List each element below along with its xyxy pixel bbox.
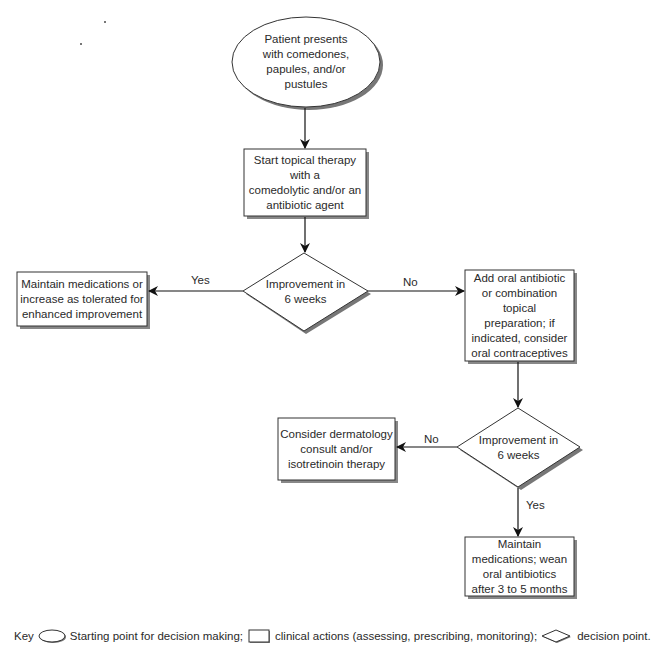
edge-label-yes-1: Yes [191, 274, 210, 286]
legend-key: Key Starting point for decision making; … [14, 628, 651, 644]
key-diamond-desc: decision point. [577, 630, 651, 642]
diamond-key-icon [540, 628, 574, 644]
maintain-medications-text: Maintain medications or increase as tole… [17, 272, 147, 326]
rect-key-icon [246, 628, 272, 644]
topical-therapy-text: Start topical therapy with a comedolytic… [244, 149, 366, 216]
edge-label-no-2: No [424, 433, 439, 445]
key-rect-desc: clinical actions (assessing, prescribing… [275, 630, 537, 642]
oral-antibiotic-text: Add oral antibiotic or combination topic… [465, 270, 574, 361]
dermatology-consult-text: Consider dermatology consult and/or isot… [278, 418, 395, 480]
edge-label-yes-2: Yes [526, 499, 545, 511]
oval-key-icon [37, 628, 67, 644]
decision-2-text: Improvement in 6 weeks [457, 408, 580, 487]
start-oval-text: Patient presents with comedones, papules… [232, 17, 380, 107]
key-oval-desc: Starting point for decision making; [70, 630, 243, 642]
edge-label-no-1: No [403, 276, 418, 288]
decision-1-text: Improvement in 6 weeks [243, 253, 368, 331]
maintain-wean-text: Maintain medications; wean oral antibiot… [465, 537, 574, 596]
key-prefix: Key [14, 630, 34, 642]
